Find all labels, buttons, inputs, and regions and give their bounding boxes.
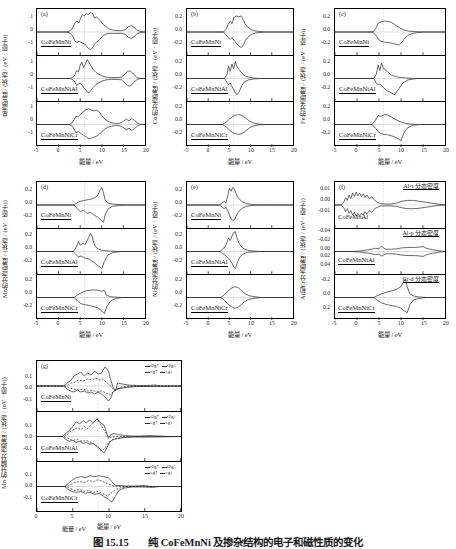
panel-c: Fe的分态密度 / (状态 / (eV · 原子)) 0.2 0.0 -0.2 … [298,2,456,170]
panel-b-row-1: CoFeMnNiAl [187,55,293,101]
panel-g-row-2: CoFeMnNiCr t2g↑ t2g↓ eg↑ eg↓ [37,461,181,511]
panel-e-ytick: -0.2 [156,258,182,264]
panel-a-compound-1: CoFeMnNiAl [41,86,78,94]
panel-d-row-0: (d) CoFeMnNi [37,182,145,228]
panel-d-compound-0: CoFeMnNi [41,212,71,220]
panel-b-ytick: -0.2 [156,85,182,91]
panel-b-xtick: 10 [243,148,259,154]
panel-b-xtick: 5 [221,148,237,154]
panel-g-compound-1: CoFeMnNiAl [41,445,78,453]
panel-e-tag: (e) [191,184,198,190]
panel-d-xtick: 15 [116,321,132,327]
panel-e-ytick: 0.0 [156,200,182,206]
panel-g-ytick: -0.1 [6,397,32,403]
panel-g-ytick: 0.0 [6,483,32,489]
panel-d-ytick: 0.0 [6,290,32,296]
panel-a-ylabel: 总态密度 / (状态 / (eV · 原子)) [2,6,11,146]
panel-f-xtick: 10 [393,321,409,327]
legend-item-eg-up: eg↑ [145,470,157,476]
panel-d-ytick: -0.2 [6,303,32,309]
legend-item-eg-up: eg↑ [145,369,157,375]
panel-d-ytick: 0.2 [6,232,32,238]
panel-f-compound-0: CoFeMnAl [338,214,368,221]
panel-e-ytick: 0.2 [156,277,182,283]
panel-e-ytick: 0.0 [156,245,182,251]
panel-e-xtick: 0 [200,321,216,327]
panel-a-xtick: 5 [72,148,88,154]
panel-b-xlabel: 能量 / eV [186,157,294,166]
panel-a: 总态密度 / (状态 / (eV · 原子)) 1 0 -1 1 0 -1 1 … [0,2,150,170]
panel-c-row-2: CoFeMnNiCr [335,101,445,147]
panel-a-xtick: 0 [50,148,66,154]
panel-c-row-0: (c) CoFeMnNi [335,9,445,55]
panel-f-xtick: -5 [326,321,342,327]
panel-b-ytick: 0.2 [156,14,182,20]
panel-f-row-0: (f) Al-s 分态密度 CoFeMnAl [335,182,445,228]
figure-caption: 图 15.15 纯 CoFeMnNi 及掺杂结构的电子和磁性质的变化 [0,534,456,549]
panel-e-row-0: (e) CoFeMnNi [187,182,293,228]
panel-a-ytick: 0 [11,27,33,33]
panel-e-ytick: 0.2 [156,187,182,193]
panel-e-row-1: CoFeMnNiAl [187,228,293,274]
panel-c-xtick: 15 [416,148,432,154]
panel-g-axes: (g) CoFeMnNi t2g↑ t2g↓ eg↑ eg↓ [36,360,182,512]
panel-a-ytick: 0 [11,72,33,78]
panel-g-ytick: 0.0 [6,434,32,440]
panel-a-row-0: (a) CoFeMnNi [37,9,145,55]
panel-b-ytick: 0.0 [156,72,182,78]
panel-g-tag: (g) [41,363,48,369]
panel-g-compound-0: CoFeMnNi [41,394,71,402]
panel-e-ytick: 0.2 [156,232,182,238]
panel-b-axes: (b) CoFeMnNi CoFeMnNiAl [186,8,294,146]
panel-g-ytick: 0.1 [6,423,32,429]
panel-e-row-2: CoFeMnNiCr [187,274,293,320]
panel-c-ytick: -0.2 [304,40,330,46]
panel-g-legend-0: t2g↑ t2g↓ eg↑ eg↓ [145,363,176,376]
panel-a-compound-2: CoFeMnNiCr [41,132,78,140]
panel-g-compound-2: CoFeMnNiCr [41,495,78,503]
legend-item-eg-dn: eg↓ [160,470,172,476]
panel-d-xtick: 10 [94,321,110,327]
legend-item-eg-dn: eg↓ [160,369,172,375]
panel-g-xtick: 15 [137,514,153,520]
panel-b-xtick: -5 [178,148,194,154]
legend-item-eg-dn: eg↓ [160,420,172,426]
panel-f-sublabel-2: Cr-d 分态密度 [403,276,439,283]
panel-e-compound-2: CoFeMnNiCr [191,305,228,313]
panel-e: Ni的分态密度 / (状态 / (eV · 原子)) 0.2 0.0 -0.2 … [150,175,298,343]
panel-a-tag: (a) [41,11,48,17]
panel-c-ytick: 0.0 [304,117,330,123]
panel-e-ytick: 0.0 [156,290,182,296]
legend-label: eg↓ [165,369,172,375]
panel-b-xtick: 15 [264,148,280,154]
panel-a-xlabel: 能量 / eV [36,157,146,166]
panel-b-compound-1: CoFeMnNiAl [191,86,228,94]
panel-b-ytick: 0.0 [156,117,182,123]
panel-c-compound-2: CoFeMnNiCr [339,132,376,140]
panel-g-xtick: 10 [100,514,116,520]
panel-c-xtick: 5 [371,148,387,154]
panel-f-row-2: Cr-d 分态密度 CoFeMnNiCr [335,274,445,320]
panel-g-xtick: 0 [28,514,44,520]
panel-e-xtick: 15 [264,321,280,327]
panel-e-compound-1: CoFeMnNiAl [191,259,228,267]
panel-a-axes: (a) CoFeMnNi CoFeMnNiAl [36,8,146,146]
panel-c-compound-1: CoFeMnNiAl [339,86,376,94]
panel-f-ytick: -0.04 [300,228,330,234]
panel-g-xtick: 20 [173,514,189,520]
panel-c-ytick: 0.2 [304,104,330,110]
panel-b-row-2: CoFeMnNiCr [187,101,293,147]
panel-b-compound-0: CoFeMnNi [191,39,221,47]
panel-c-xtick: 0 [348,148,364,154]
panel-b-row-0: (b) CoFeMnNi [187,9,293,55]
panel-g-ytick: 0.1 [6,374,32,380]
legend-label: eg↑ [150,470,157,476]
panel-c-ytick: -0.2 [304,130,330,136]
panel-f-xtick: 5 [371,321,387,327]
panel-f-ytick: 0.2 [300,305,330,311]
legend-label: eg↓ [165,420,172,426]
panel-d-ytick: 0.0 [6,245,32,251]
panel-a-xtick: -5 [28,148,44,154]
panel-f-compound-2: CoFeMnNiCr [338,305,375,313]
panel-b-ytick: -0.2 [156,40,182,46]
